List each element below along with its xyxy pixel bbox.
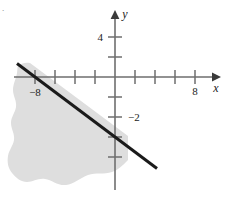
y-axis-label: y xyxy=(121,7,128,21)
y-tick-label--2: −2 xyxy=(128,111,140,123)
y-axis-arrowhead xyxy=(111,10,120,19)
shaded-half-plane xyxy=(8,63,128,185)
x-tick-label-8: 8 xyxy=(192,85,198,97)
x-tick-label--8: −8 xyxy=(29,86,41,98)
coordinate-plane-figure: x y −8 8 4 −2 xyxy=(0,0,229,199)
shaded-region-group xyxy=(8,63,128,185)
x-axis-label: x xyxy=(212,81,219,95)
y-tick-label-4: 4 xyxy=(98,31,104,43)
